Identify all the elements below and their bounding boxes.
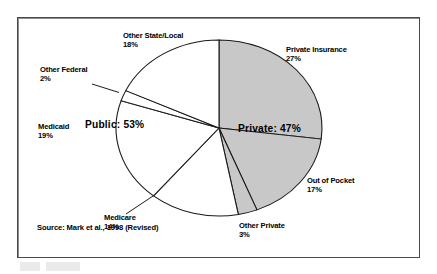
caption-fragment [20, 262, 80, 271]
slice-label-percent: 17% [307, 185, 354, 194]
figure-frame: Other State/Local 18% Other Federal 2% M… [17, 17, 420, 258]
slice-label-text: Private Insurance [286, 45, 347, 54]
slice-label-medicaid: Medicaid 19% [38, 122, 69, 140]
slice-label-other-federal: Other Federal 2% [40, 65, 87, 83]
slice-label-percent: 19% [38, 131, 69, 140]
source-note: Source: Mark et al., 1998 (Revised) [37, 223, 158, 232]
group-label-private: Private: 47% [238, 123, 301, 134]
slice-label-text: Other Federal [40, 65, 87, 74]
leader-line-medicare [126, 196, 153, 214]
slice-label-percent: 27% [286, 54, 347, 63]
slice-label-other-state-local: Other State/Local 18% [123, 31, 183, 49]
slice-label-percent: 2% [40, 74, 87, 83]
slice-label-out-of-pocket: Out of Pocket 17% [307, 176, 354, 194]
slice-label-percent: 18% [123, 40, 183, 49]
slice-label-private-insurance: Private Insurance 27% [286, 45, 347, 63]
slice-label-other-private: Other Private 3% [239, 221, 285, 239]
slice-label-text: Other Private [239, 221, 285, 230]
leader-line-other-federal [92, 84, 119, 93]
slice-label-text: Medicare [104, 213, 136, 222]
pie-chart: Other State/Local 18% Other Federal 2% M… [18, 18, 421, 259]
slice-label-percent: 3% [239, 230, 285, 239]
group-label-public: Public: 53% [85, 119, 144, 130]
slice-label-text: Other State/Local [123, 31, 183, 40]
slice-label-text: Out of Pocket [307, 176, 354, 185]
slice-label-text: Medicaid [38, 122, 69, 131]
